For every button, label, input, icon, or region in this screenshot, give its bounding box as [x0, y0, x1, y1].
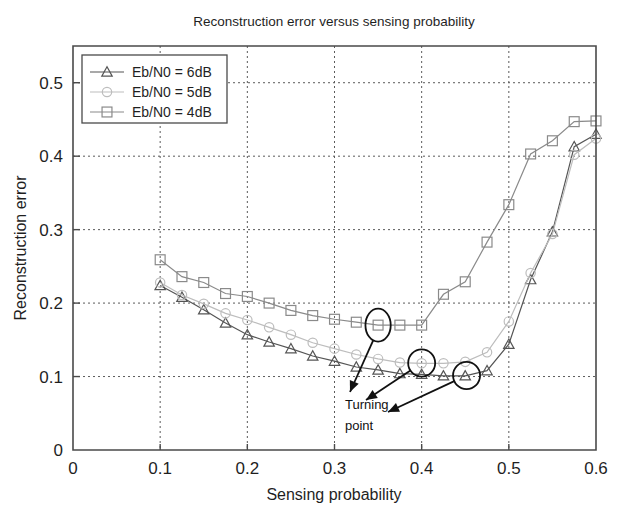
annotation-label-line1: Turning	[345, 397, 389, 412]
x-axis-title: Sensing probability	[266, 486, 401, 503]
y-tick-label: 0.1	[39, 368, 63, 387]
y-tick-label: 0	[54, 441, 63, 460]
x-tick-label: 0.5	[497, 459, 521, 478]
x-tick-label: 0.6	[584, 459, 608, 478]
x-tick-label: 0.4	[410, 459, 434, 478]
annotation-label-line2: point	[345, 418, 374, 433]
x-tick-label: 0.1	[148, 459, 172, 478]
y-tick-label: 0.4	[39, 147, 63, 166]
chart-title: Reconstruction error versus sensing prob…	[193, 14, 475, 29]
y-tick-label: 0.5	[39, 74, 63, 93]
legend-label: Eb/N0 = 6dB	[132, 64, 212, 80]
y-tick-label: 0.2	[39, 294, 63, 313]
chart-figure: Reconstruction error versus sensing prob…	[0, 0, 635, 523]
y-tick-label: 0.3	[39, 221, 63, 240]
legend-label: Eb/N0 = 5dB	[132, 84, 212, 100]
x-tick-label: 0.2	[236, 459, 260, 478]
y-axis-title: Reconstruction error	[12, 175, 29, 321]
chart-legend: Eb/N0 = 6dBEb/N0 = 5dBEb/N0 = 4dB	[82, 55, 227, 123]
legend-label: Eb/N0 = 4dB	[132, 104, 212, 120]
x-tick-label: 0.3	[323, 459, 347, 478]
reconstruction-error-chart: Reconstruction error versus sensing prob…	[0, 0, 635, 523]
x-tick-label: 0	[68, 459, 77, 478]
